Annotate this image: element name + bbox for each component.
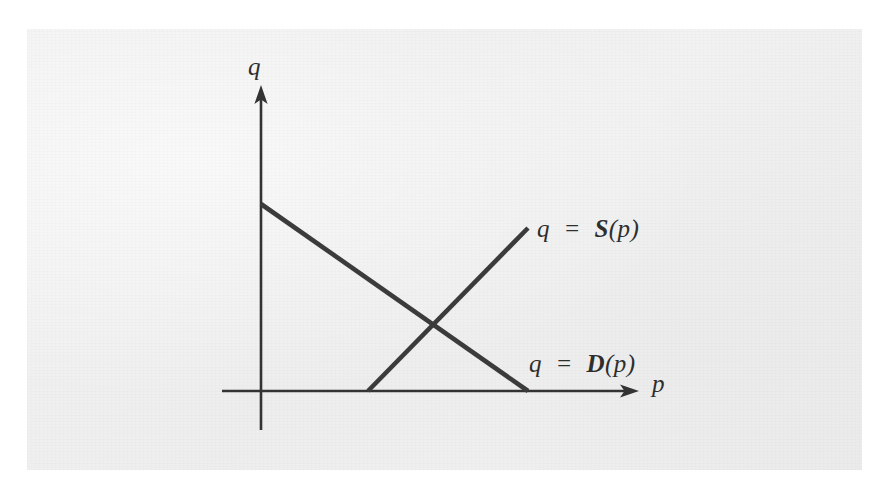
- demand-label-lhs: q: [529, 350, 542, 377]
- supply-demand-diagram: [0, 0, 883, 496]
- demand-label-function: D: [586, 350, 605, 377]
- supply-label-arg: p: [618, 215, 631, 242]
- supply-curve-label: q = S(p): [537, 216, 639, 241]
- demand-label-equals: =: [556, 350, 573, 377]
- figure-page: q p q = S(p) q = D(p): [0, 0, 883, 496]
- quantity-axis-label: q: [248, 54, 261, 79]
- demand-label-arg: p: [614, 350, 627, 377]
- demand-label-close-paren: ): [627, 350, 636, 377]
- supply-label-open-paren: (: [609, 215, 618, 242]
- price-axis-label: p: [652, 371, 665, 396]
- demand-curve-label: q = D(p): [529, 351, 636, 376]
- demand-label-open-paren: (: [605, 350, 614, 377]
- supply-curve-line: [368, 228, 528, 391]
- supply-label-equals: =: [564, 215, 581, 242]
- supply-label-lhs: q: [537, 215, 550, 242]
- supply-label-function: S: [594, 215, 608, 242]
- supply-label-close-paren: ): [631, 215, 640, 242]
